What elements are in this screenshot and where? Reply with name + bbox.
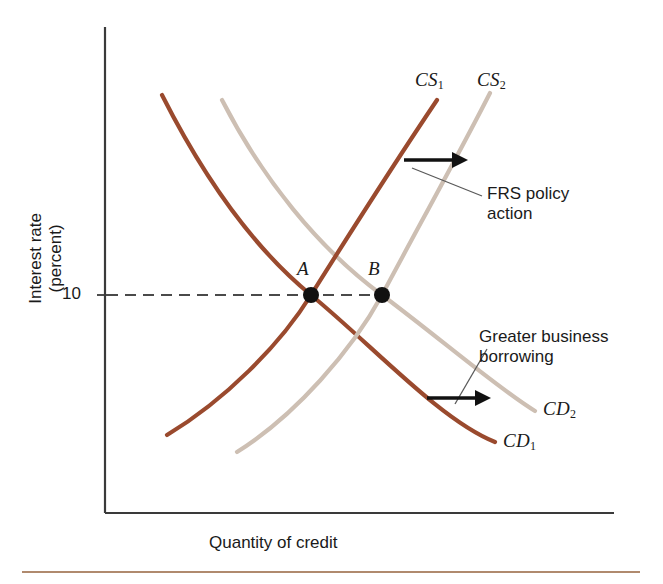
x-axis-title: Quantity of credit [209, 533, 338, 553]
curve-label-cd2-text: CD [543, 398, 570, 419]
curve-label-cd1-sub: 1 [530, 439, 536, 453]
point-label-a: A [297, 258, 309, 280]
curve-label-cs2-text: CS [477, 69, 500, 90]
bottom-rule-divider [22, 571, 640, 573]
curve-label-cd1: CD1 [503, 430, 536, 452]
annotation-frs-policy-action: FRS policy action [487, 184, 569, 224]
curve-label-cs1-sub: 1 [438, 78, 444, 92]
curve-label-cd2-sub: 2 [570, 407, 576, 421]
chart-canvas [0, 0, 663, 584]
figure-container: Interest rate (percent) 10 Quantity of c… [0, 0, 663, 584]
curve-label-cd1-text: CD [503, 430, 530, 451]
curve-label-cs2: CS2 [477, 69, 506, 91]
curve-label-cs1: CS1 [415, 69, 444, 91]
annotation-greater-business-borrowing: Greater business borrowing [479, 327, 608, 367]
curve-label-cd2: CD2 [543, 398, 576, 420]
curve-label-cs1-text: CS [415, 69, 438, 90]
point-a-marker [303, 287, 319, 303]
point-b-marker [374, 287, 390, 303]
curve-label-cs2-sub: 2 [500, 78, 506, 92]
y-axis-title: Interest rate (percent) [26, 178, 67, 338]
y-tick-label-10: 10 [62, 284, 81, 304]
point-label-b: B [368, 258, 380, 280]
